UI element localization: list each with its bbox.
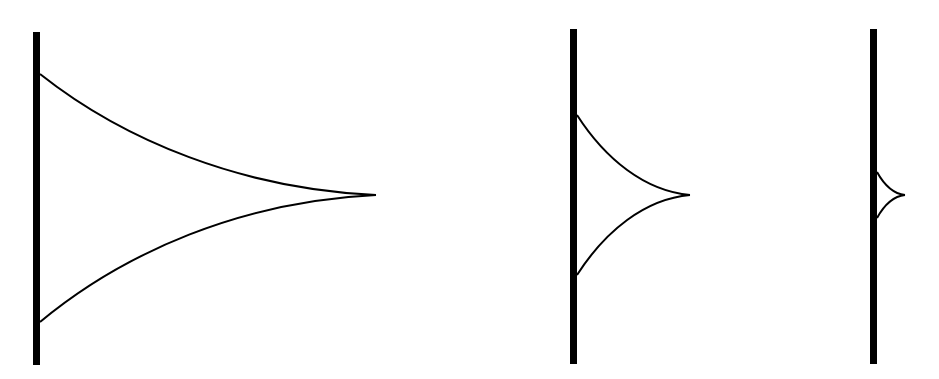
lower-curve bbox=[877, 195, 905, 218]
lower-curve bbox=[577, 195, 690, 275]
cusp-shape-small bbox=[874, 29, 906, 364]
upper-curve bbox=[40, 74, 376, 195]
cusp-shape-medium bbox=[574, 29, 691, 364]
lower-curve bbox=[40, 195, 376, 322]
cusp-shape-large bbox=[37, 32, 377, 365]
cusp-diagram bbox=[0, 0, 939, 379]
upper-curve bbox=[877, 172, 905, 195]
upper-curve bbox=[577, 115, 690, 195]
